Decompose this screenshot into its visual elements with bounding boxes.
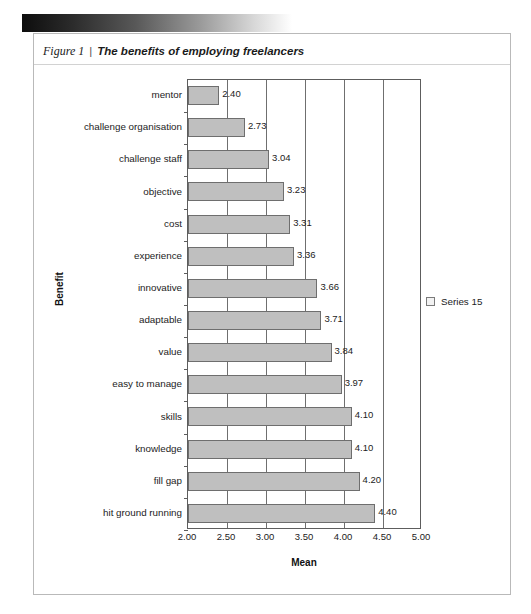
y-axis-category-label: experience: [40, 250, 182, 261]
bar-row: 3.36: [188, 241, 422, 273]
y-axis-labels: mentorchallenge organisationchallenge st…: [34, 79, 182, 529]
gradient-banner: [22, 14, 292, 32]
bar-row: 4.10: [188, 434, 422, 466]
bar[interactable]: [188, 150, 269, 169]
y-axis-category-label: value: [40, 346, 182, 357]
bar-value-label: 3.71: [324, 313, 343, 324]
bar[interactable]: [188, 311, 321, 330]
figure-number: Figure 1: [43, 44, 84, 58]
bar[interactable]: [188, 182, 284, 201]
y-axis-category-label: objective: [40, 186, 182, 197]
bar-value-label: 4.10: [355, 409, 374, 420]
bar-value-label: 3.84: [335, 345, 354, 356]
plot-area: 2.402.733.043.233.313.363.663.713.843.97…: [187, 79, 421, 529]
x-tick-label: 2.00: [178, 531, 197, 542]
bar-row: 4.10: [188, 401, 422, 433]
bar[interactable]: [188, 407, 352, 426]
x-tick-label: 4.00: [334, 531, 353, 542]
bar-row: 3.31: [188, 209, 422, 241]
bar-row: 3.23: [188, 176, 422, 208]
bar[interactable]: [188, 118, 245, 137]
y-axis-category-label: cost: [40, 218, 182, 229]
bar[interactable]: [188, 247, 294, 266]
bar-row: 3.66: [188, 273, 422, 305]
y-axis-category-label: challenge organisation: [40, 121, 182, 132]
bar-value-label: 2.40: [222, 88, 241, 99]
bar-value-label: 3.31: [293, 217, 312, 228]
figure-caption-separator: |: [84, 45, 97, 57]
bar-value-label: 3.97: [345, 377, 364, 388]
bar-value-label: 2.73: [248, 120, 267, 131]
y-axis-category-label: mentor: [40, 89, 182, 100]
bar-value-label: 4.20: [363, 474, 382, 485]
bar[interactable]: [188, 215, 290, 234]
bar-row: 3.84: [188, 337, 422, 369]
bar-value-label: 4.40: [378, 506, 397, 517]
bar-value-label: 3.23: [287, 184, 306, 195]
bar-row: 2.73: [188, 112, 422, 144]
x-tick-label: 3.00: [256, 531, 275, 542]
x-tick-label: 2.50: [217, 531, 236, 542]
y-axis-category-label: fill gap: [40, 475, 182, 486]
bar-value-label: 3.04: [272, 152, 291, 163]
bar[interactable]: [188, 86, 219, 105]
bar-value-label: 3.36: [297, 249, 316, 260]
bar[interactable]: [188, 504, 375, 523]
x-tick-label: 4.50: [373, 531, 392, 542]
bar[interactable]: [188, 440, 352, 459]
y-axis-category-label: hit ground running: [40, 507, 182, 518]
bar-value-label: 3.66: [320, 281, 339, 292]
bar-row: 2.40: [188, 80, 422, 112]
x-axis-tick-labels: 2.002.503.003.504.004.505.00: [187, 531, 421, 547]
y-axis-category-label: easy to manage: [40, 378, 182, 389]
figure-caption: Figure 1|The benefits of employing freel…: [43, 44, 304, 59]
figure-title: The benefits of employing freelancers: [97, 45, 304, 57]
x-axis-title: Mean: [187, 557, 421, 568]
x-tick-label: 5.00: [412, 531, 431, 542]
y-axis-category-label: innovative: [40, 282, 182, 293]
y-axis-category-label: challenge staff: [40, 153, 182, 164]
bar-row: 3.71: [188, 305, 422, 337]
y-axis-category-label: skills: [40, 411, 182, 422]
y-axis-category-label: adaptable: [40, 314, 182, 325]
bar-row: 3.97: [188, 369, 422, 401]
chart-legend: Series 15: [426, 296, 482, 307]
y-axis-category-label: knowledge: [40, 443, 182, 454]
bar-row: 3.04: [188, 144, 422, 176]
x-tick-label: 3.50: [295, 531, 314, 542]
legend-swatch-icon: [426, 297, 435, 306]
bar[interactable]: [188, 375, 342, 394]
figure-frame: Figure 1|The benefits of employing freel…: [33, 33, 511, 595]
legend-label: Series 15: [441, 296, 482, 307]
bar-row: 4.40: [188, 498, 422, 530]
bar-row: 4.20: [188, 466, 422, 498]
bar[interactable]: [188, 343, 332, 362]
bar[interactable]: [188, 472, 360, 491]
bar[interactable]: [188, 279, 317, 298]
bar-value-label: 4.10: [355, 442, 374, 453]
caption-divider: [34, 64, 510, 65]
